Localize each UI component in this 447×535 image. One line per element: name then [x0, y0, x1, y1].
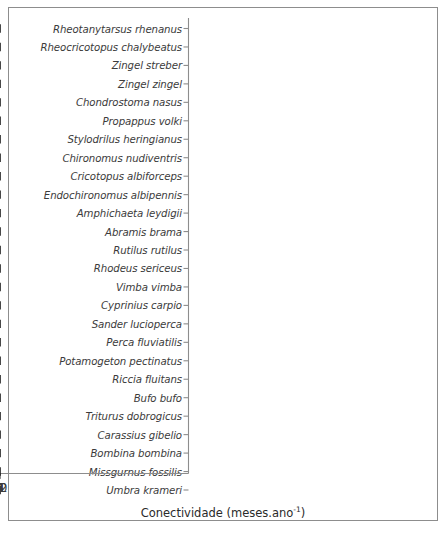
category-label: Triturus dobrogicus: [86, 411, 182, 422]
x-axis-title-exponent: -1: [293, 505, 300, 514]
category-label-column: Rheotanytarsus rhenanusRheocricotopus ch…: [0, 0, 182, 535]
x-axis-title-main: Conectividade (meses.ano: [141, 506, 294, 520]
category-label: Cyprinius carpio: [101, 300, 182, 311]
x-axis-title-close: ): [301, 506, 306, 520]
category-label: Chironomus nudiventris: [62, 152, 182, 163]
category-label: Carassius gibelio: [98, 429, 182, 440]
category-label: Rhodeus sericeus: [94, 263, 182, 274]
category-label: Umbra krameri: [106, 485, 182, 496]
category-label: Bombina bombina: [90, 448, 182, 459]
category-label: Potamogeton pectinatus: [59, 355, 182, 366]
x-tick-label: 12: [0, 481, 7, 495]
category-label: Abramis brama: [105, 226, 182, 237]
category-label: Zingel zingel: [118, 78, 182, 89]
category-label: Cricotopus albiforceps: [71, 171, 182, 182]
category-label: Bufo bufo: [134, 392, 182, 403]
category-label: Rheocricotopus chalybeatus: [41, 41, 182, 52]
category-label: Amphichaeta leydigii: [77, 208, 182, 219]
category-label: Chondrostoma nasus: [76, 97, 182, 108]
category-label: Rutilus rutilus: [113, 245, 182, 256]
category-label: Missgurnus fossilis: [89, 466, 182, 477]
category-label: Perca fluviatilis: [106, 337, 182, 348]
category-label: Sander lucioperca: [92, 318, 182, 329]
category-label: Rheotanytarsus rhenanus: [53, 23, 182, 34]
category-label: Riccia fluitans: [112, 374, 182, 385]
category-label: Endochironomus albipennis: [44, 189, 182, 200]
category-label: Stylodrilus heringianus: [67, 134, 182, 145]
category-label: Vimba vimba: [116, 281, 182, 292]
category-label: Zingel streber: [112, 60, 182, 71]
x-axis-title: Conectividade (meses.ano-1): [8, 505, 438, 520]
category-label: Propappus volki: [102, 115, 182, 126]
figure-container: Rheotanytarsus rhenanusRheocricotopus ch…: [0, 0, 447, 535]
